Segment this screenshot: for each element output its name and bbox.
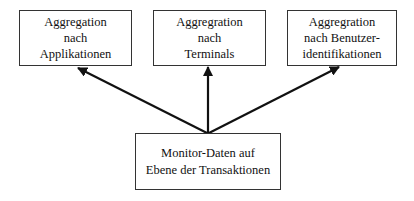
- node-label-line: nach Benutzer-: [304, 30, 380, 46]
- arrow-to-user-ids: [209, 67, 339, 133]
- node-aggregation-terminals: Aggregration nach Terminals: [153, 10, 266, 66]
- node-label-line: identifikationen: [302, 46, 381, 62]
- node-label-line: Aggregation: [44, 14, 106, 30]
- node-label-line: Terminals: [185, 46, 235, 62]
- node-label-line: Aggregration: [176, 14, 243, 30]
- node-label-line: Ebene der Transaktionen: [146, 162, 270, 179]
- node-label-line: nach: [198, 30, 222, 46]
- node-label-line: Aggregration: [309, 14, 376, 30]
- arrow-to-applications: [78, 68, 207, 133]
- node-aggregation-applications: Aggregation nach Applikationen: [19, 10, 132, 66]
- node-label-line: Monitor-Daten auf: [161, 145, 255, 162]
- node-monitor-data: Monitor-Daten auf Ebene der Transaktione…: [135, 133, 281, 190]
- node-label-line: Applikationen: [40, 46, 112, 62]
- node-aggregation-user-ids: Aggregration nach Benutzer- identifikati…: [287, 10, 397, 66]
- node-label-line: nach: [64, 30, 88, 46]
